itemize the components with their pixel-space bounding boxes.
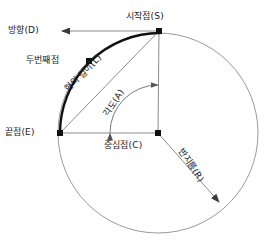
- radius-line-vertical: [158, 31, 159, 133]
- point-marker-end: [57, 130, 63, 136]
- point-marker-start: [156, 28, 162, 34]
- arc-geometry-diagram: 방향(D) 시작점(S) 두번째점 현의 길이(L) 각도(A) 끝점(E) 중…: [0, 0, 269, 250]
- label-second-point: 두번째점: [26, 56, 59, 65]
- label-end-point: 끝점(E): [5, 128, 35, 137]
- diagram-canvas: [0, 0, 269, 250]
- point-marker-center: [155, 130, 161, 136]
- label-start-point: 시작점(S): [126, 12, 164, 21]
- label-center-point: 중심점(C): [104, 141, 143, 150]
- label-direction: 방향(D): [8, 26, 39, 35]
